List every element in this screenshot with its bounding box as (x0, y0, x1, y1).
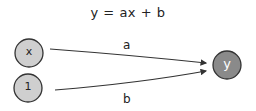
edge-1-to-y (55, 71, 206, 90)
edge-label-b: b (123, 92, 131, 106)
node-one-label: 1 (14, 80, 42, 93)
edge-label-a: a (123, 38, 130, 52)
node-y-label: y (213, 56, 241, 71)
node-x-label: x (15, 45, 43, 58)
